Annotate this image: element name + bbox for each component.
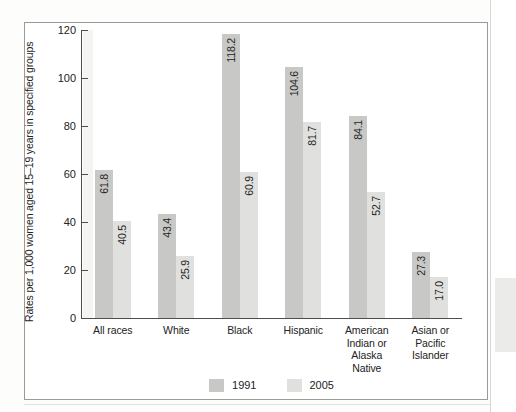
- bar-value-wrap: 104.6: [285, 69, 303, 109]
- bar-value-label: 27.3: [416, 256, 427, 276]
- legend-label: 2005: [310, 379, 334, 392]
- x-axis-label-all-races: All races: [81, 324, 145, 337]
- y-axis-title: Rates per 1,000 women aged 15–19 years i…: [22, 32, 36, 322]
- y-axis-tick-label: 100: [58, 71, 76, 85]
- bar-value-wrap: 118.2: [222, 36, 240, 76]
- bar-value-wrap: 27.3: [412, 254, 430, 294]
- bar-hispanic-2005: 81.7: [303, 122, 321, 318]
- bar-value-label: 60.9: [243, 176, 254, 196]
- bar-value-wrap: 43.4: [158, 216, 176, 256]
- x-axis-label-line: American: [335, 324, 399, 337]
- x-axis-line: [81, 318, 462, 319]
- x-axis-label-line: Native: [335, 362, 399, 375]
- x-axis-label-asian-or-pacific-islander: Asian orPacificIslander: [399, 324, 463, 362]
- bar-hispanic-1991: 104.6: [285, 67, 303, 318]
- bar-all-races-2005: 40.5: [113, 221, 131, 318]
- bar-white-1991: 43.4: [158, 214, 176, 318]
- y-axis-tick-label: 0: [70, 311, 76, 325]
- page-canvas: Rates per 1,000 women aged 15–19 years i…: [0, 0, 516, 412]
- bar-value-label: 25.9: [180, 260, 191, 280]
- y-axis-tick: 40: [81, 222, 88, 223]
- x-axis-label-line: Black: [208, 324, 272, 337]
- legend-swatch-icon: [209, 379, 224, 392]
- bar-value-wrap: 60.9: [240, 174, 258, 214]
- scan-artifact-block: [495, 278, 516, 352]
- bar-value-label: 40.5: [116, 225, 127, 245]
- x-axis-label-line: Alaska: [335, 349, 399, 362]
- x-axis-label-line: Pacific: [399, 337, 463, 350]
- x-axis-label-line: All races: [81, 324, 145, 337]
- bar-value-label: 17.0: [434, 281, 445, 301]
- bar-all-races-1991: 61.8: [95, 170, 113, 318]
- x-axis-label-line: Indian or: [335, 337, 399, 350]
- bar-value-wrap: 25.9: [176, 258, 194, 298]
- bar-white-2005: 25.9: [176, 256, 194, 318]
- scan-bottom-rule: [24, 404, 490, 405]
- y-axis-tick-label: 120: [58, 23, 76, 37]
- bar-value-wrap: 84.1: [349, 118, 367, 158]
- x-axis-label-american-indian-or-alaska-native: AmericanIndian orAlaskaNative: [335, 324, 399, 374]
- legend-swatch-icon: [287, 379, 302, 392]
- x-axis-label-line: White: [145, 324, 209, 337]
- y-axis-tick: 80: [81, 126, 88, 127]
- bar-black-1991: 118.2: [222, 34, 240, 318]
- bar-value-wrap: 17.0: [430, 279, 448, 319]
- bar-chart-plot-area: 020406080100120 61.840.543.425.9118.260.…: [81, 30, 462, 318]
- bar-value-wrap: 81.7: [303, 124, 321, 164]
- bar-black-2005: 60.9: [240, 172, 258, 318]
- bar-value-label: 104.6: [289, 71, 300, 96]
- y-axis-tick-label: 80: [64, 119, 76, 133]
- bar-value-label: 118.2: [225, 38, 236, 63]
- x-axis-label-line: Hispanic: [272, 324, 336, 337]
- y-axis-tick: 60: [81, 174, 88, 175]
- bar-american-indian-or-alaska-native-1991: 84.1: [349, 116, 367, 318]
- y-axis-tick-label: 60: [64, 167, 76, 181]
- y-axis-tick: 100: [81, 78, 88, 79]
- legend-item-2005[interactable]: 2005: [287, 379, 334, 392]
- bar-asian-or-pacific-islander-1991: 27.3: [412, 252, 430, 318]
- chart-legend: 19912005: [81, 379, 462, 392]
- bar-value-label: 84.1: [352, 120, 363, 140]
- x-axis-label-hispanic: Hispanic: [272, 324, 336, 337]
- x-axis-label-white: White: [145, 324, 209, 337]
- y-axis-tick-label: 40: [64, 215, 76, 229]
- x-axis-label-line: Islander: [399, 349, 463, 362]
- bar-value-wrap: 40.5: [113, 223, 131, 263]
- bar-american-indian-or-alaska-native-2005: 52.7: [367, 192, 385, 318]
- bar-value-wrap: 52.7: [367, 194, 385, 234]
- bar-value-label: 43.4: [162, 218, 173, 238]
- x-axis-label-line: Asian or: [399, 324, 463, 337]
- bar-value-label: 61.8: [98, 174, 109, 194]
- y-axis-tick: 0: [81, 318, 88, 319]
- bar-value-wrap: 61.8: [95, 172, 113, 212]
- legend-label: 1991: [232, 379, 256, 392]
- bar-value-label: 81.7: [307, 126, 318, 146]
- bar-value-label: 52.7: [370, 196, 381, 216]
- legend-item-1991[interactable]: 1991: [209, 379, 256, 392]
- y-axis-tick: 120: [81, 30, 88, 31]
- x-axis-label-black: Black: [208, 324, 272, 337]
- bar-asian-or-pacific-islander-2005: 17.0: [430, 277, 448, 318]
- y-axis-tick: 20: [81, 270, 88, 271]
- y-axis-tick-label: 20: [64, 263, 76, 277]
